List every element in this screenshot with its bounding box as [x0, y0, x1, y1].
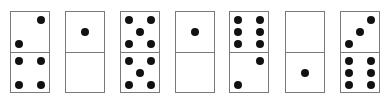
pip-icon: [136, 28, 144, 36]
pip-icon: [37, 57, 45, 65]
domino-bottom-half: [66, 52, 104, 93]
pip-icon: [125, 57, 133, 65]
pip-icon: [256, 40, 264, 48]
pip-icon: [234, 40, 242, 48]
pip-icon: [234, 81, 242, 89]
domino-bottom-half: [176, 52, 214, 93]
domino-bottom-half: [121, 52, 159, 93]
pip-icon: [15, 40, 23, 48]
pip-icon: [125, 81, 133, 89]
domino-3: [120, 11, 160, 93]
pip-icon: [256, 57, 264, 65]
pip-icon: [367, 81, 375, 89]
domino-2: [65, 11, 105, 93]
domino-7: [340, 11, 380, 93]
pip-icon: [345, 57, 353, 65]
pip-icon: [147, 57, 155, 65]
pip-icon: [367, 69, 375, 77]
pip-icon: [15, 57, 23, 65]
domino-1: [10, 11, 50, 93]
pip-icon: [345, 81, 353, 89]
domino-top-half: [286, 12, 324, 52]
pip-icon: [37, 16, 45, 24]
domino-bottom-half: [286, 52, 324, 93]
pip-icon: [147, 40, 155, 48]
pip-icon: [15, 81, 23, 89]
domino-top-half: [176, 12, 214, 52]
pip-icon: [125, 40, 133, 48]
pip-icon: [125, 16, 133, 24]
pip-icon: [256, 28, 264, 36]
pip-icon: [81, 28, 89, 36]
pip-icon: [234, 16, 242, 24]
domino-top-half: [341, 12, 379, 52]
pip-icon: [234, 28, 242, 36]
domino-5: [229, 11, 269, 93]
pip-icon: [136, 69, 144, 77]
pip-icon: [191, 28, 199, 36]
domino-top-half: [11, 12, 49, 52]
pip-icon: [356, 28, 364, 36]
pip-icon: [301, 69, 309, 77]
pip-icon: [367, 16, 375, 24]
pip-icon: [345, 69, 353, 77]
domino-6: [285, 11, 325, 93]
pip-icon: [147, 81, 155, 89]
pip-icon: [37, 81, 45, 89]
domino-4: [175, 11, 215, 93]
pip-icon: [367, 57, 375, 65]
domino-bottom-half: [341, 52, 379, 93]
domino-top-half: [121, 12, 159, 52]
domino-bottom-half: [11, 52, 49, 93]
pip-icon: [345, 40, 353, 48]
pip-icon: [256, 16, 264, 24]
domino-top-half: [66, 12, 104, 52]
domino-bottom-half: [230, 52, 268, 93]
pip-icon: [147, 16, 155, 24]
domino-top-half: [230, 12, 268, 52]
